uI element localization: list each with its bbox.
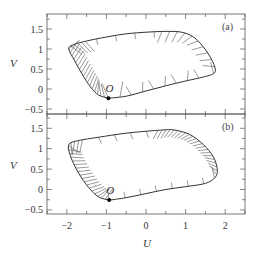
panel-label-a: (a)	[222, 21, 233, 33]
limit-cycle	[68, 130, 217, 201]
y-tick-label: 0	[38, 84, 43, 95]
y-axis-title-a: V	[10, 57, 18, 69]
plot-frame	[47, 114, 245, 214]
x-tick-label: 1	[183, 220, 188, 231]
point-o	[107, 198, 111, 202]
y-tick-label: −0.5	[25, 104, 43, 115]
y-tick-label: 0	[38, 184, 43, 195]
y-tick-label: −0.5	[25, 204, 43, 215]
point-o-label: O	[105, 82, 113, 94]
x-tick-label: −1	[101, 220, 112, 231]
panel-label-b: (b)	[222, 121, 234, 133]
point-o	[106, 96, 110, 100]
panel-b: −0.500.511.5−2−1012O	[25, 114, 245, 231]
y-tick-label: 1.5	[31, 24, 44, 35]
x-tick-label: 0	[144, 220, 149, 231]
y-axis-title-b: V	[10, 159, 18, 171]
y-tick-label: 0.5	[31, 64, 44, 75]
y-tick-label: 0.5	[31, 164, 44, 175]
y-tick-label: 1	[38, 143, 43, 154]
vector-segments	[69, 31, 215, 98]
point-o-label: O	[106, 184, 114, 196]
x-tick-label: −2	[61, 220, 72, 231]
y-tick-label: 1	[38, 44, 43, 55]
y-tick-label: 1.5	[31, 123, 44, 134]
x-tick-label: 2	[223, 220, 228, 231]
panel-a: −0.500.511.5O	[25, 14, 245, 115]
limit-cycle	[69, 31, 216, 98]
x-axis-title: U	[143, 237, 152, 249]
chart-canvas: −0.500.511.5O −0.500.511.5−2−1012O V V U…	[0, 0, 257, 256]
